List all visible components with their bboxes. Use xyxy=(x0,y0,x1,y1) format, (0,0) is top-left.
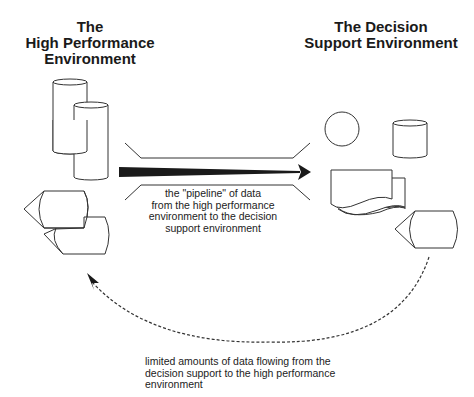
document-stack-icon xyxy=(331,170,405,215)
caption-line: support environment xyxy=(128,223,298,235)
caption-line: environment xyxy=(145,379,405,391)
tape-drive-icon xyxy=(395,211,458,248)
pipeline-arrow-icon xyxy=(119,164,311,180)
database-cylinder-icon xyxy=(393,120,427,158)
circle-icon xyxy=(325,112,359,146)
return-flow-arrow xyxy=(87,257,429,342)
caption-line: the "pipeline" of data xyxy=(128,188,298,200)
tape-drive-icon xyxy=(24,191,88,228)
caption-line: environment to the decision xyxy=(128,211,298,223)
caption-line: limited amounts of data flowing from the xyxy=(145,356,405,368)
pipeline-caption: the "pipeline" of data from the high per… xyxy=(128,188,298,234)
return-flow-caption: limited amounts of data flowing from the… xyxy=(145,356,405,391)
